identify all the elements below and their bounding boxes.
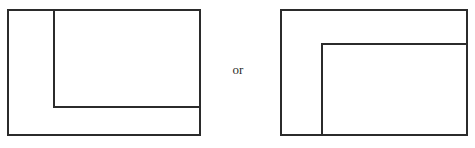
or-connector-label: or	[226, 62, 250, 78]
